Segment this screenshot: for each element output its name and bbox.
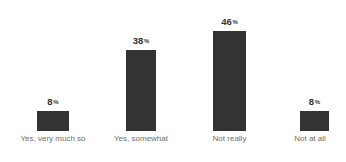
bar-group-1: 38% — [126, 0, 156, 131]
bar-value-label-3: 8% — [309, 97, 320, 107]
bar-group-2: 46% — [213, 0, 246, 131]
bar-value-label-0: 8% — [47, 97, 58, 107]
bar-column-3: 8% — [300, 97, 329, 132]
bar-0[interactable] — [37, 111, 69, 131]
category-label-2: Not really — [186, 135, 273, 144]
bar-chart: 8% 38% 46% 8% Yes, very much so Yes, som… — [0, 0, 346, 162]
plot-area: 8% 38% 46% 8% — [0, 0, 346, 131]
percent-symbol-2: % — [232, 19, 237, 25]
bar-value-3: 8 — [309, 96, 314, 107]
bar-2[interactable] — [213, 31, 246, 131]
percent-symbol-0: % — [53, 99, 58, 105]
bar-column-2: 46% — [213, 17, 246, 132]
bar-3[interactable] — [300, 111, 329, 131]
bar-1[interactable] — [126, 50, 156, 131]
bar-value-0: 8 — [47, 96, 52, 107]
bar-value-2: 46 — [221, 16, 232, 27]
bar-value-label-1: 38% — [133, 36, 150, 46]
bar-column-1: 38% — [126, 36, 156, 132]
bar-group-3: 8% — [300, 0, 329, 131]
bar-group-0: 8% — [37, 0, 69, 131]
bar-value-label-2: 46% — [221, 17, 238, 27]
percent-symbol-1: % — [144, 38, 149, 44]
category-label-1: Yes, somewhat — [91, 135, 191, 144]
category-label-3: Not at all — [274, 135, 346, 144]
bar-column-0: 8% — [37, 97, 69, 132]
percent-symbol-3: % — [315, 99, 320, 105]
bar-value-1: 38 — [133, 35, 144, 46]
